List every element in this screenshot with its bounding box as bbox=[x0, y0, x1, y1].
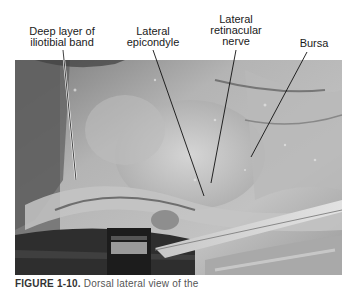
label-lateral-retinacular-nerve: Lateral retinacular nerve bbox=[203, 14, 269, 47]
label-line: epicondyle bbox=[122, 37, 184, 48]
label-line: nerve bbox=[203, 36, 269, 47]
label-line: iliotibial band bbox=[28, 37, 96, 48]
label-lateral-epicondyle: Lateral epicondyle bbox=[122, 26, 184, 48]
label-line: Bursa bbox=[294, 38, 334, 49]
figure-number: FIGURE 1-10. bbox=[15, 278, 81, 289]
label-deep-layer-iliotibial-band: Deep layer of iliotibial band bbox=[28, 26, 96, 48]
label-bursa: Bursa bbox=[294, 38, 334, 49]
figure-caption: FIGURE 1-10. Dorsal lateral view of the bbox=[15, 279, 198, 289]
caption-text: Dorsal lateral view of the bbox=[84, 278, 199, 289]
dissection-photograph bbox=[15, 60, 342, 275]
